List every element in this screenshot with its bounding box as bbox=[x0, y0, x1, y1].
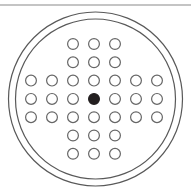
hole bbox=[26, 94, 37, 105]
hole bbox=[89, 57, 100, 68]
hole bbox=[152, 75, 163, 86]
hole bbox=[131, 94, 142, 105]
hole bbox=[68, 39, 79, 50]
hole bbox=[110, 112, 121, 123]
hole bbox=[89, 39, 100, 50]
hole bbox=[110, 39, 121, 50]
hole bbox=[110, 130, 121, 141]
perforated-disc-diagram bbox=[0, 0, 191, 192]
hole bbox=[68, 57, 79, 68]
hole bbox=[131, 75, 142, 86]
hole bbox=[89, 112, 100, 123]
hole bbox=[131, 112, 142, 123]
hole bbox=[152, 112, 163, 123]
hole bbox=[68, 94, 79, 105]
hole bbox=[68, 112, 79, 123]
hole bbox=[68, 130, 79, 141]
figure-container bbox=[0, 0, 191, 192]
hole bbox=[110, 57, 121, 68]
hole bbox=[47, 75, 58, 86]
hole bbox=[26, 75, 37, 86]
hole bbox=[89, 75, 100, 86]
center-marked-hole bbox=[89, 94, 100, 105]
hole bbox=[26, 112, 37, 123]
hole bbox=[110, 148, 121, 159]
hole bbox=[47, 94, 58, 105]
hole bbox=[152, 94, 163, 105]
hole bbox=[89, 130, 100, 141]
hole bbox=[89, 148, 100, 159]
hole bbox=[47, 112, 58, 123]
hole bbox=[68, 148, 79, 159]
hole bbox=[110, 75, 121, 86]
hole bbox=[68, 75, 79, 86]
hole bbox=[110, 94, 121, 105]
